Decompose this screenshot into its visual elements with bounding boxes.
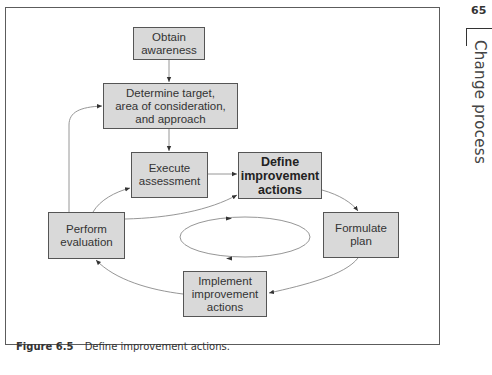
node-label-line: improvement bbox=[192, 288, 258, 301]
page-number: 65 bbox=[471, 4, 486, 17]
node-label-line: Obtain bbox=[141, 31, 197, 44]
node-label-line: Execute bbox=[139, 162, 200, 175]
node-perform-evaluation: Perform evaluation bbox=[48, 212, 125, 259]
node-label-line: Define bbox=[241, 155, 320, 169]
node-label-line: actions bbox=[241, 183, 320, 197]
node-label-line: Determine target, bbox=[115, 87, 226, 100]
node-obtain-awareness: Obtain awareness bbox=[133, 27, 205, 60]
page-number-rule bbox=[466, 28, 492, 29]
figure-caption: Figure 6.5 Define improvement actions. bbox=[16, 341, 230, 352]
node-label-line: plan bbox=[335, 235, 387, 248]
node-determine-target: Determine target, area of consideration,… bbox=[103, 83, 238, 129]
node-formulate-plan: Formulate plan bbox=[323, 212, 399, 258]
figure-caption-text: Define improvement actions. bbox=[85, 341, 230, 352]
node-label-line: improvement bbox=[241, 169, 320, 183]
node-label-line: area of consideration, bbox=[115, 100, 226, 113]
figure-label: Figure 6.5 bbox=[16, 341, 73, 352]
node-label-line: Implement bbox=[192, 275, 258, 288]
node-label-line: Perform bbox=[60, 223, 112, 236]
node-label-line: evaluation bbox=[60, 236, 112, 249]
node-define-improvement-actions: Define improvement actions bbox=[238, 152, 322, 199]
node-label-line: Formulate bbox=[335, 222, 387, 235]
node-label-line: and approach bbox=[115, 113, 226, 126]
node-label-line: actions bbox=[192, 301, 258, 314]
node-label-line: awareness bbox=[141, 44, 197, 57]
node-label-line: assessment bbox=[139, 175, 200, 188]
node-implement-improvement-actions: Implement improvement actions bbox=[183, 271, 267, 317]
page-number-vertical-rule bbox=[466, 28, 467, 46]
running-chapter-title: Change process bbox=[471, 40, 489, 164]
node-execute-assessment: Execute assessment bbox=[131, 152, 208, 198]
